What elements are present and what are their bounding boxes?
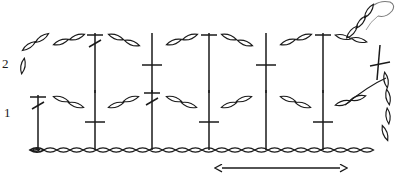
chain-pair-symbol [335, 33, 368, 44]
chain-pair-symbol [53, 95, 85, 110]
row-label-2: 2 [2, 57, 9, 70]
chain-stitch-symbol [189, 148, 202, 152]
chain-stitch-symbol [70, 148, 83, 152]
chain-pair-symbol [280, 32, 312, 46]
chain-stitch-symbol [228, 148, 241, 152]
yarn-tail-chain [345, 1, 394, 39]
crochet-chart-svg [0, 0, 400, 180]
row-1-stitches [30, 90, 366, 150]
treble-crochet-symbol [87, 33, 103, 93]
chain-pair-symbol [166, 32, 198, 46]
treble-crochet-symbol [142, 33, 162, 93]
chain-stitch-symbol [96, 148, 109, 152]
turning-chain-right [345, 72, 391, 141]
chain-stitch-symbol [360, 148, 373, 152]
chain-stitch-symbol [268, 148, 281, 152]
chain-stitch-symbol [281, 148, 294, 152]
chain-stitch-symbol [44, 148, 57, 152]
chain-stitch-symbol [242, 148, 255, 152]
crochet-chart-canvas: 2 1 [0, 0, 400, 180]
chain-stitch-symbol [136, 148, 149, 152]
treble-crochet-symbol [85, 90, 105, 150]
chain-stitch-symbol [294, 148, 307, 152]
treble-crochet-symbol [201, 33, 217, 93]
chain-pair-symbol [108, 95, 140, 110]
chain-stitch-symbol [149, 148, 162, 152]
chain-stitch-symbol [308, 148, 321, 152]
foundation-chain-row [30, 148, 374, 153]
chain-stitch-symbol [347, 148, 360, 152]
chain-pair-symbol [166, 95, 198, 110]
chain-stitch-symbol [215, 148, 228, 152]
chain-pair-symbol [221, 32, 253, 47]
chain-stitch-symbol [57, 148, 70, 152]
treble-crochet-symbol [30, 95, 46, 150]
row-label-1: 1 [4, 106, 11, 119]
chain-stitch-symbol [176, 148, 189, 152]
row-2-stitches [53, 32, 390, 93]
treble-crochet-symbol [313, 90, 333, 150]
chain-stitch-symbol [334, 148, 347, 152]
treble-crochet-symbol [370, 45, 390, 80]
chain-stitch-symbol [162, 148, 175, 152]
chain-pair-symbol [53, 32, 85, 46]
chain-stitch-symbol [123, 148, 136, 152]
treble-crochet-symbol [199, 90, 219, 150]
chain-pair-symbol [221, 95, 253, 110]
treble-crochet-symbol [256, 33, 276, 93]
treble-crochet-symbol [315, 33, 331, 93]
treble-crochet-symbol [144, 90, 160, 150]
chain-pair-symbol [280, 95, 312, 110]
chain-stitch-symbol [110, 148, 123, 152]
turning-chain-left [20, 32, 50, 74]
chain-pair-symbol [108, 32, 140, 47]
slip-knot-symbol [30, 148, 44, 153]
